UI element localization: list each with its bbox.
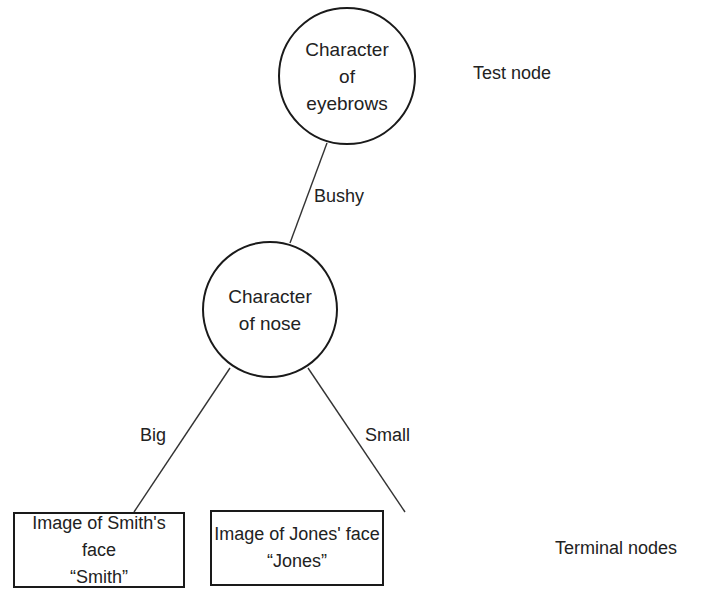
edge-label-bushy: Bushy — [314, 186, 364, 207]
test-node-eyebrows: Character of eyebrows — [278, 7, 416, 145]
annotation-test-node: Test node — [473, 63, 551, 84]
test-node-nose: Character of nose — [202, 241, 338, 378]
test-node-nose-label: Character of nose — [228, 283, 311, 337]
terminal-node-jones: Image of Jones' face “Jones” — [210, 510, 384, 586]
test-node-eyebrows-label: Character of eyebrows — [305, 36, 388, 117]
terminal-node-smith-image-label: Image of Smith's face — [15, 510, 183, 564]
annotation-terminal-nodes: Terminal nodes — [555, 538, 677, 559]
terminal-node-jones-image-label: Image of Jones' face — [214, 521, 380, 548]
terminal-node-smith: Image of Smith's face “Smith” — [13, 512, 185, 588]
terminal-node-smith-name: “Smith” — [70, 564, 128, 591]
edge-label-small: Small — [365, 425, 410, 446]
terminal-node-jones-name: “Jones” — [267, 548, 327, 575]
edge-label-big: Big — [140, 425, 166, 446]
